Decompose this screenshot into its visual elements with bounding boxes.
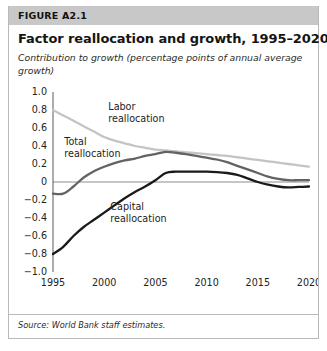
y-axis-tick-label: 0.6: [32, 122, 47, 133]
y-axis-tick-label: −0.6: [24, 230, 47, 241]
series-label-line2: reallocation: [64, 148, 120, 159]
x-axis-tick-label: 2000: [92, 277, 116, 288]
series-label-line1: Labor: [108, 101, 135, 112]
figure-title: Factor reallocation and growth, 1995–202…: [18, 31, 313, 46]
y-axis-tick-label: 0: [41, 176, 47, 187]
figure-number: FIGURE A2.1: [18, 10, 87, 21]
series-label-line1: Total: [63, 136, 86, 147]
series-label-line2: reallocation: [110, 213, 166, 224]
y-axis-tick-label: −0.2: [24, 194, 47, 205]
source-divider: [9, 314, 318, 315]
y-axis-tick-label: 0.2: [32, 158, 47, 169]
series-label-capital: Capitalreallocation: [110, 201, 166, 224]
x-axis-tick-label: 1995: [41, 277, 65, 288]
chart-plot-area: 1.00.80.60.40.20−0.2−0.4−0.6−0.8−1.01995…: [9, 82, 318, 308]
y-axis-tick-label: 1.0: [32, 86, 47, 97]
y-axis-tick-label: −0.8: [24, 248, 47, 259]
figure-card: FIGURE A2.1 Factor reallocation and grow…: [8, 6, 319, 339]
figure-subtitle: Contribution to growth (percentage point…: [18, 52, 309, 77]
figure-source: Source: World Bank staff estimates.: [18, 320, 165, 330]
x-axis-tick-label: 2005: [143, 277, 167, 288]
x-axis-tick-label: 2015: [246, 277, 270, 288]
y-axis-tick-label: 0.8: [32, 104, 47, 115]
x-axis-tick-label: 2010: [194, 277, 218, 288]
series-label-line2: reallocation: [108, 113, 164, 124]
y-axis-tick-label: 0.4: [32, 140, 47, 151]
figure-page: FIGURE A2.1 Factor reallocation and grow…: [0, 0, 327, 351]
y-axis-tick-label: −0.4: [24, 212, 47, 223]
y-axis-tick-label: −1.0: [24, 266, 47, 277]
x-axis-tick-label: 2020: [297, 277, 318, 288]
series-label-line1: Capital: [110, 201, 144, 212]
line-chart: 1.00.80.60.40.20−0.2−0.4−0.6−0.8−1.01995…: [9, 82, 318, 308]
series-line-capital: [53, 172, 309, 254]
series-label-labor: Laborreallocation: [108, 101, 164, 124]
